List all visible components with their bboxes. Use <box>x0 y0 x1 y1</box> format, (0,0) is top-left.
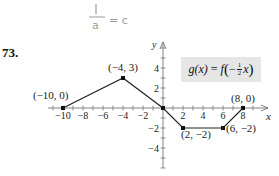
svg-text:−6: −6 <box>98 110 109 121</box>
svg-text:2: 2 <box>154 83 159 94</box>
function-line <box>63 78 243 128</box>
svg-text:−2: −2 <box>148 123 159 134</box>
x-tick-labels: −10−8−6−4−22468 <box>55 110 245 121</box>
svg-text:4: 4 <box>201 110 206 121</box>
formula-close: ) <box>249 61 254 78</box>
svg-text:(6, −2): (6, −2) <box>226 122 256 135</box>
svg-text:2: 2 <box>181 110 186 121</box>
svg-text:−8: −8 <box>78 110 89 121</box>
formula-sign: − <box>229 62 236 77</box>
formula-lhs: g(x) <box>188 62 207 77</box>
svg-text:−2: −2 <box>138 110 149 121</box>
svg-text:4: 4 <box>154 63 159 74</box>
formula-eq: = <box>211 62 218 77</box>
graph: −10−8−6−4−22468 42−2−4 x y (−10, 0)(−4, … <box>0 0 279 176</box>
y-axis-label: y <box>151 39 157 50</box>
svg-text:−4: −4 <box>118 110 129 121</box>
x-axis-label: x <box>265 110 271 122</box>
svg-text:(−4, 3): (−4, 3) <box>108 61 138 74</box>
svg-text:8: 8 <box>241 110 246 121</box>
svg-text:−10: −10 <box>55 110 71 121</box>
svg-text:(8, 0): (8, 0) <box>231 92 255 105</box>
svg-text:6: 6 <box>221 110 226 121</box>
svg-text:(2, −2): (2, −2) <box>181 128 211 141</box>
svg-text:−4: −4 <box>148 143 159 154</box>
svg-text:(−10, 0): (−10, 0) <box>33 89 69 102</box>
formula-box: g(x) = f ( − 1 2 x ) <box>181 57 261 82</box>
formula-fraction: 1 2 <box>237 62 243 77</box>
